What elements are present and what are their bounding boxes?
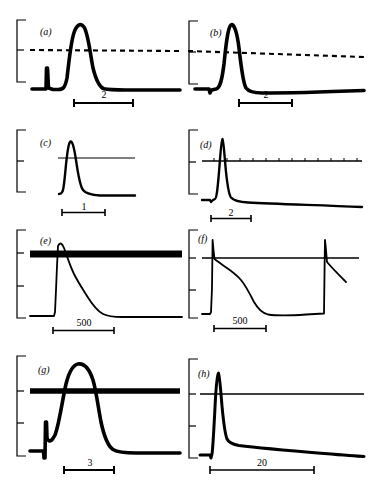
panel-f-plot	[184, 228, 368, 343]
panel-f: (f) 500	[184, 228, 368, 343]
panel-d-time-scale-label: 2	[218, 208, 244, 218]
panel-a-time-scale-label: 2	[84, 90, 124, 100]
panel-d-label: (d)	[200, 140, 212, 150]
panel-f-label: (f)	[198, 234, 207, 244]
panel-h-time-scale-label: 20	[246, 458, 278, 468]
panel-a: (a) 2	[0, 0, 184, 122]
panel-b-reference-line	[188, 51, 364, 57]
panel-c-label: (c)	[40, 138, 51, 148]
panel-c-time-scale-label: 1	[70, 202, 98, 212]
panel-e-vertical-scale-bracket	[17, 230, 26, 318]
panel-g-trace	[30, 364, 180, 458]
panel-a-vertical-scale-bracket	[17, 20, 26, 82]
panel-g-label: (g)	[38, 365, 50, 375]
panel-c-trace	[59, 141, 135, 195]
panel-b-plot	[184, 0, 368, 122]
panel-b-time-scale-label: 2	[246, 90, 286, 100]
panel-c: (c) 1	[0, 122, 184, 232]
panel-f-vertical-scale-bracket	[189, 230, 198, 318]
panel-e-label: (e)	[40, 236, 51, 246]
panel-h-trace	[200, 373, 364, 458]
panel-a-time-scale-bar	[74, 99, 133, 107]
panel-f-trace	[202, 240, 346, 315]
panel-a-reference-line	[30, 50, 180, 51]
panel-h-label: (h)	[198, 369, 210, 379]
panel-a-label: (a)	[40, 27, 52, 37]
panel-e-time-scale-label: 500	[68, 318, 100, 328]
panel-d-trace	[202, 139, 362, 207]
panel-h: (h) 20	[184, 340, 368, 489]
panel-g: (g) 3	[0, 340, 184, 489]
panel-f-time-scale-label: 500	[224, 316, 256, 326]
panel-g-time-scale-label: 3	[76, 458, 104, 468]
panel-a-plot	[0, 0, 184, 122]
panel-b: (b) 2	[184, 0, 368, 122]
panel-b-time-scale-bar	[239, 99, 292, 107]
panel-e: (e) 500	[0, 228, 184, 343]
panel-a-trace	[32, 25, 180, 90]
panel-e-time-scale-bar	[53, 327, 114, 334]
figure-canvas: (a) 2 (b) 2 (c)	[0, 0, 368, 489]
panel-h-vertical-scale-bracket	[189, 359, 198, 458]
panel-d: (d) 2	[184, 122, 368, 232]
panel-g-vertical-scale-bracket	[17, 356, 26, 456]
panel-f-time-scale-bar	[214, 325, 266, 332]
panel-c-plot	[0, 122, 184, 232]
panel-b-label: (b)	[210, 28, 222, 38]
